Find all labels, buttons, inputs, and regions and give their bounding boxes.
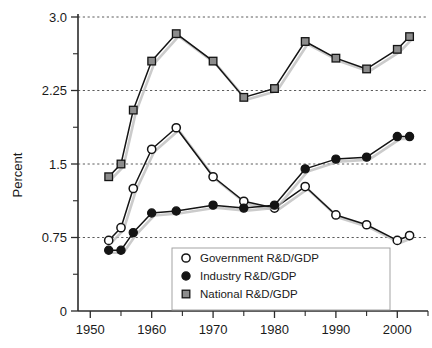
data-point [117, 160, 125, 168]
data-point [332, 211, 340, 219]
legend-label: Industry R&D/GDP [200, 270, 297, 282]
data-point [172, 124, 180, 132]
data-point [209, 201, 217, 209]
y-tick-label-0: 0 [60, 304, 67, 319]
data-point [105, 246, 113, 254]
x-tick-label-1970: 1970 [199, 322, 228, 337]
data-point [405, 231, 413, 239]
data-point [129, 106, 137, 114]
y-tick-label-1.5: 1.5 [49, 157, 67, 172]
data-point [363, 65, 371, 73]
data-point [129, 229, 137, 237]
data-point [105, 173, 113, 181]
legend-item[interactable]: National R&D/GDP [182, 288, 298, 300]
data-point [393, 236, 401, 244]
data-point [117, 224, 125, 232]
y-tick-label-3: 3.0 [49, 10, 67, 25]
legend-marker-filled-circle [182, 272, 190, 280]
x-tick-label-1960: 1960 [137, 322, 166, 337]
data-point [301, 38, 309, 46]
data-point [362, 221, 370, 229]
y-tick-label-2.25: 2.25 [42, 83, 67, 98]
legend-label: Government R&D/GDP [200, 252, 319, 264]
data-point [301, 182, 309, 190]
y-axis-title: Percent [10, 152, 25, 197]
data-point [240, 94, 248, 102]
line-chart: 00.751.52.253.0 195019601970198019902000… [0, 0, 432, 348]
y-tick-label-0.75: 0.75 [42, 230, 67, 245]
data-point [393, 132, 401, 140]
x-tick-label-1990: 1990 [321, 322, 350, 337]
data-point [270, 201, 278, 209]
data-point [148, 57, 156, 65]
chart-page: 00.751.52.253.0 195019601970198019902000… [0, 0, 432, 348]
data-point [332, 155, 340, 163]
data-point [209, 57, 217, 65]
data-point [301, 165, 309, 173]
data-point [172, 207, 180, 215]
data-point [406, 33, 414, 41]
legend-label: National R&D/GDP [200, 288, 298, 300]
x-tick-label-2000: 2000 [383, 322, 412, 337]
legend-item[interactable]: Industry R&D/GDP [182, 270, 297, 282]
data-point [393, 46, 401, 54]
legend-item[interactable]: Government R&D/GDP [182, 252, 319, 264]
data-point [105, 236, 113, 244]
legend-marker-square [182, 290, 190, 298]
legend-marker-open-circle [182, 254, 190, 262]
data-point [332, 54, 340, 62]
data-point [148, 209, 156, 217]
x-tick-label-1950: 1950 [76, 322, 105, 337]
x-tick-label-1980: 1980 [260, 322, 289, 337]
data-point [405, 132, 413, 140]
data-point [209, 173, 217, 181]
data-point [129, 184, 137, 192]
data-point [172, 30, 180, 38]
data-point [148, 145, 156, 153]
data-point [117, 246, 125, 254]
data-point [271, 85, 279, 93]
data-point [362, 153, 370, 161]
data-point [240, 204, 248, 212]
